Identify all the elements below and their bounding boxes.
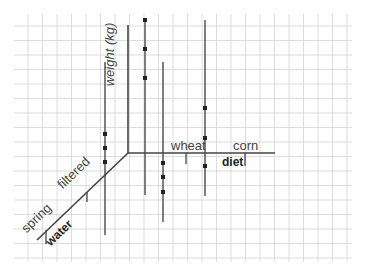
data-point xyxy=(161,175,165,179)
data-point xyxy=(143,18,147,22)
axes xyxy=(37,25,275,244)
weight-axis-label: weight (kg) xyxy=(103,23,116,87)
data-series xyxy=(103,18,207,235)
diagram-canvas: weight (kg) wheat corn diet filtered spr… xyxy=(0,0,375,273)
series-filtered-corn xyxy=(203,20,207,196)
data-point xyxy=(161,190,165,194)
data-point xyxy=(203,164,207,168)
data-point xyxy=(143,76,147,80)
series-spring-wheat xyxy=(103,62,107,235)
data-point xyxy=(203,106,207,110)
diet-category-wheat: wheat xyxy=(171,139,206,152)
data-point xyxy=(103,132,107,136)
data-point xyxy=(143,47,147,51)
data-point xyxy=(103,146,107,150)
diet-axis-label: diet xyxy=(222,156,243,168)
diet-category-corn: corn xyxy=(233,139,258,152)
data-point xyxy=(103,160,107,164)
data-point xyxy=(161,161,165,165)
